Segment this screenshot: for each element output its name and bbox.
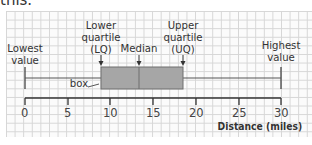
lower-quartile-label: Lowerquartile(LQ)	[80, 20, 122, 56]
tick-label-30: 30	[274, 106, 289, 120]
iqr-box	[101, 67, 183, 89]
tick-label-25: 25	[232, 106, 247, 120]
upper-quartile-label: Upperquartile(UQ)	[162, 20, 204, 56]
median-label: Median	[120, 43, 159, 55]
x-axis-title: Distance (miles)	[217, 120, 302, 132]
box-pointer-line	[88, 84, 99, 87]
tick-label-0: 0	[21, 106, 28, 120]
box-plot-diagram: this. Lowestvalue Lowerquartile(LQ)	[0, 0, 312, 145]
tick-label-15: 15	[146, 106, 161, 120]
tick-label-5: 5	[64, 106, 71, 120]
tick-label-20: 20	[189, 106, 204, 120]
lowest-value-label: Lowestvalue	[4, 43, 46, 67]
tick-label-10: 10	[103, 106, 118, 120]
box-label: box	[69, 78, 89, 90]
highest-value-label: Highestvalue	[260, 40, 302, 64]
